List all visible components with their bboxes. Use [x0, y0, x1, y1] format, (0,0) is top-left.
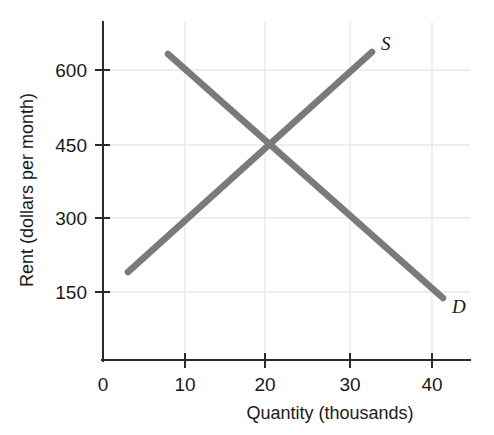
chart-figure: 600 450 300 150 0 10 20 30 40 Rent (doll…: [0, 0, 494, 435]
x-tick-label-40: 40: [421, 374, 442, 395]
x-axis-title: Quantity (thousands): [246, 403, 413, 423]
data-series: [128, 52, 443, 298]
y-axis-title: Rent (dollars per month): [17, 93, 37, 287]
supply-curve-label: S: [381, 33, 391, 54]
supply-demand-chart: 600 450 300 150 0 10 20 30 40 Rent (doll…: [0, 0, 494, 435]
x-axis-tick-labels: 0 10 20 30 40: [98, 374, 443, 395]
x-tick-label-10: 10: [174, 374, 195, 395]
y-tick-label-300: 300: [55, 208, 87, 229]
demand-curve-label: D: [451, 296, 466, 317]
y-axis-tick-labels: 600 450 300 150: [55, 60, 87, 303]
axes: [102, 22, 470, 361]
gridlines: [103, 22, 470, 360]
x-tick-label-0: 0: [98, 374, 109, 395]
supply-curve: [128, 52, 372, 272]
x-tick-label-20: 20: [254, 374, 275, 395]
y-tick-label-450: 450: [55, 135, 87, 156]
y-tick-label-600: 600: [55, 60, 87, 81]
demand-curve: [168, 54, 443, 298]
y-tick-label-150: 150: [55, 282, 87, 303]
x-tick-label-30: 30: [339, 374, 360, 395]
